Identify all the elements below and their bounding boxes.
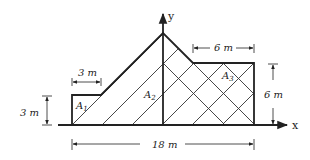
area-label-a1: A1 — [75, 100, 88, 113]
y-axis-label: y — [167, 10, 175, 23]
hatch-falling — [133, 3, 285, 125]
dim-a3-height-label: 6 m — [264, 89, 283, 100]
dim-a3-width-label: 6 m — [214, 42, 233, 53]
hatch-rising — [72, 25, 310, 125]
dim-a1-height-label: 3 m — [20, 107, 39, 118]
x-axis-label: x — [292, 119, 299, 132]
dim-a1-width-label: 3 m — [78, 67, 97, 78]
dim-total-width-label: 18 m — [152, 139, 177, 150]
dim-a1-height — [42, 96, 52, 125]
area-label-a2: A2 — [143, 89, 156, 102]
dim-a1-width — [72, 78, 101, 86]
composite-area-diagram: x y A1 A2 A3 3 m 3 m 6 m 6 m — [0, 0, 310, 160]
